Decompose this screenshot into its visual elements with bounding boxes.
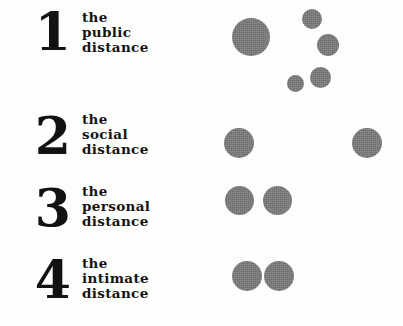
label-line: distance	[82, 214, 150, 229]
person-dot-public-distance	[317, 34, 339, 56]
label-line: personal	[82, 199, 150, 214]
label-intimate-distance: theintimatedistance	[82, 256, 149, 302]
person-dot-intimate-distance	[264, 261, 294, 291]
label-line: the	[82, 112, 149, 127]
person-dot-social-distance	[224, 128, 254, 158]
person-dot-intimate-distance	[232, 261, 262, 291]
person-dot-public-distance	[287, 75, 304, 92]
label-line: the	[82, 184, 150, 199]
proxemics-diagram: 1thepublicdistance2thesocialdistance3the…	[0, 0, 403, 326]
label-personal-distance: thepersonaldistance	[82, 184, 150, 230]
person-dot-personal-distance	[263, 186, 292, 215]
label-line: social	[82, 127, 149, 142]
person-dot-public-distance	[232, 18, 270, 56]
person-dot-social-distance	[352, 128, 382, 158]
label-line: distance	[82, 40, 149, 55]
label-line: the	[82, 10, 149, 25]
numeral-intimate-distance: 4	[8, 254, 70, 306]
label-public-distance: thepublicdistance	[82, 10, 149, 56]
label-line: public	[82, 25, 149, 40]
label-line: intimate	[82, 271, 149, 286]
numeral-social-distance: 2	[8, 110, 70, 162]
label-social-distance: thesocialdistance	[82, 112, 149, 158]
person-dot-public-distance	[302, 9, 322, 29]
person-dot-public-distance	[310, 67, 331, 88]
numeral-public-distance: 1	[8, 6, 70, 58]
label-line: the	[82, 256, 149, 271]
person-dot-personal-distance	[225, 186, 254, 215]
label-line: distance	[82, 142, 149, 157]
label-line: distance	[82, 286, 149, 301]
numeral-personal-distance: 3	[8, 182, 70, 234]
